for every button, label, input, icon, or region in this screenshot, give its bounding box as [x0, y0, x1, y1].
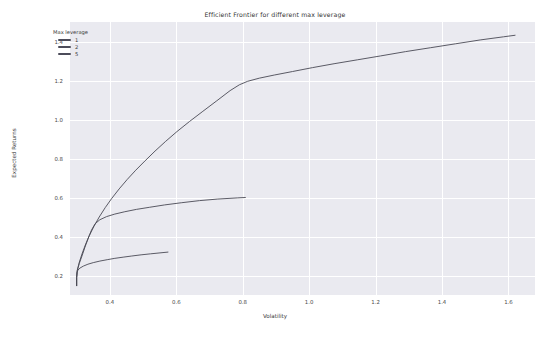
series-line-1 [77, 252, 168, 286]
x-tick-label: 0.4 [95, 299, 125, 305]
y-tick-label: 0.6 [41, 195, 63, 201]
chart-figure: Efficient Frontier for different max lev… [0, 0, 550, 339]
legend-item-5[interactable]: 5 [52, 51, 88, 58]
x-tick-label: 0.8 [228, 299, 258, 305]
y-tick-label: 0.8 [41, 156, 63, 162]
x-tick-label: 1.0 [294, 299, 324, 305]
y-axis-label: Expected Returns [11, 103, 17, 203]
legend-item-label: 2 [75, 44, 78, 51]
legend-title: Max leverage [53, 29, 88, 35]
legend-item-2[interactable]: 2 [52, 44, 88, 51]
x-tick-label: 1.2 [361, 299, 391, 305]
legend: Max leverage 125 [48, 27, 92, 61]
x-tick-label: 1.6 [493, 299, 523, 305]
y-tick-label: 0.2 [41, 273, 63, 279]
legend-line-swatch [58, 53, 71, 54]
plot-area [70, 22, 535, 295]
series-line-2 [77, 198, 246, 286]
legend-item-1[interactable]: 1 [52, 37, 88, 44]
x-axis-label: Volatility [0, 313, 550, 319]
y-tick-label: 1.0 [41, 117, 63, 123]
chart-title: Efficient Frontier for different max lev… [0, 11, 550, 18]
y-tick-label: 1.2 [41, 78, 63, 84]
y-tick-label: 0.4 [41, 234, 63, 240]
legend-item-label: 5 [75, 51, 78, 58]
x-tick-label: 0.6 [161, 299, 191, 305]
legend-line-swatch [58, 39, 71, 40]
legend-line-swatch [58, 46, 71, 47]
series-line-5 [77, 35, 515, 285]
legend-item-label: 1 [75, 37, 78, 44]
x-tick-label: 1.4 [427, 299, 457, 305]
series-lines [70, 22, 535, 295]
legend-entries: 125 [52, 37, 88, 58]
